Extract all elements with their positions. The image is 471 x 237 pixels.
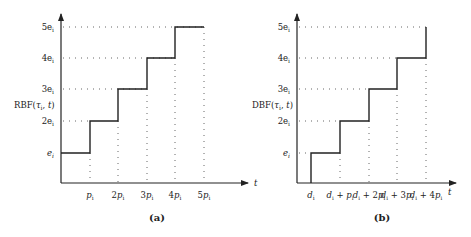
y-tick-a-5: 5ei <box>42 22 54 33</box>
panel-b: 5ei 4ei 3ei 2ei ei DBF(τi, t) di di + pi… <box>252 14 456 223</box>
y-label-b: DBF(τi, t) <box>252 100 293 111</box>
x-label-b: t <box>448 187 452 197</box>
y-tick-a-1: ei <box>47 148 54 159</box>
dbf-step-curve <box>311 27 426 183</box>
caption-b: (b) <box>374 212 390 223</box>
y-tick-b-2: 2ei <box>278 116 290 127</box>
x-tick-b-1: di <box>307 190 314 201</box>
y-tick-b-1: ei <box>283 148 290 159</box>
x-tick-b-4: di + 3pi <box>381 190 414 201</box>
x-tick-a-1: pi <box>86 190 93 201</box>
y-label-a: RBF(τi, t) <box>14 100 55 111</box>
y-tick-b-5: 5ei <box>278 22 290 33</box>
rbf-step-curve <box>61 27 204 153</box>
x-tick-b-2: di + pi <box>327 190 354 201</box>
x-tick-a-3: 3pi <box>141 190 154 201</box>
guide-lines-b <box>299 27 426 183</box>
panel-a: 5ei 4ei 3ei 2ei ei RBF(τi, t) pi 2pi 3pi… <box>14 14 258 223</box>
x-tick-b-5: di + 4pi <box>410 190 443 201</box>
x-tick-a-4: 4pi <box>169 190 182 201</box>
y-tick-a-4: 4ei <box>42 53 54 64</box>
caption-a: (a) <box>149 212 165 223</box>
x-tick-a-2: 2pi <box>112 190 125 201</box>
x-label-a: t <box>254 178 258 188</box>
y-tick-a-3: 3ei <box>42 84 54 95</box>
y-tick-b-4: 4ei <box>278 53 290 64</box>
y-tick-b-3: 3ei <box>278 84 290 95</box>
x-tick-a-5: 5pi <box>198 190 211 201</box>
figure: 5ei 4ei 3ei 2ei ei RBF(τi, t) pi 2pi 3pi… <box>0 0 471 237</box>
y-tick-a-2: 2ei <box>42 116 54 127</box>
guide-lines-a <box>63 27 204 183</box>
